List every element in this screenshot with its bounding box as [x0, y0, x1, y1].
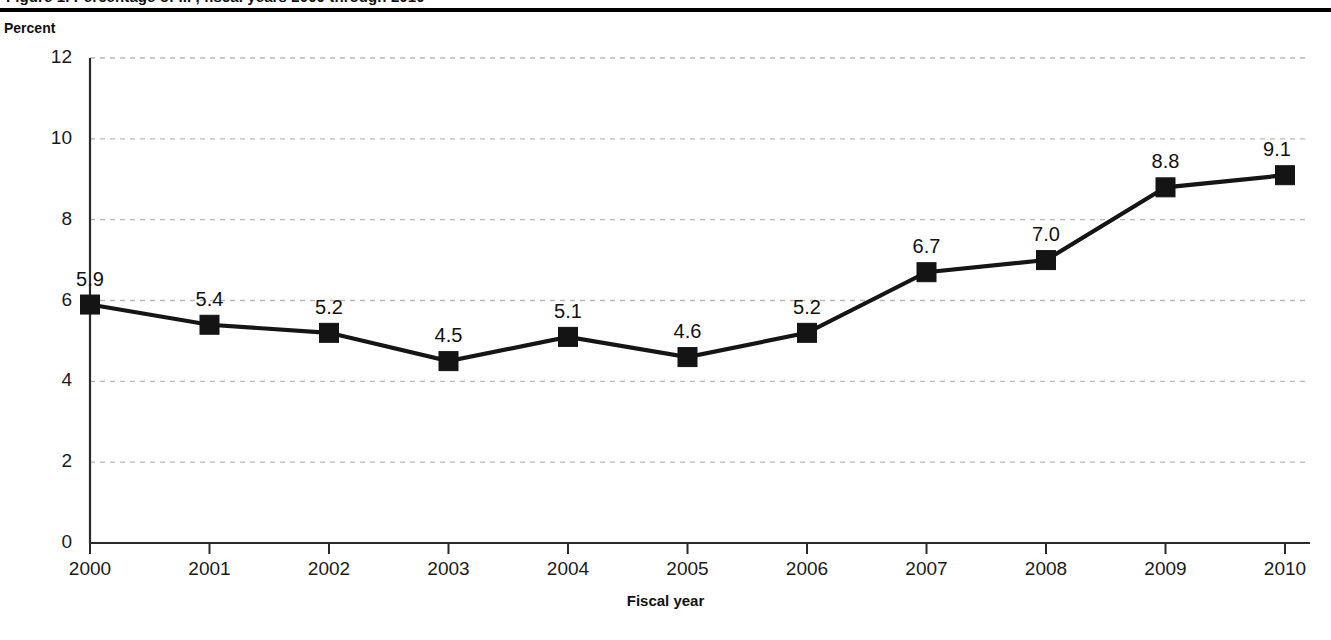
- data-point-label-2007: 6.7: [913, 235, 941, 257]
- y-tick-labels-group: 024681012: [51, 46, 73, 552]
- data-point-labels-group: 5.95.45.24.55.14.65.26.77.08.89.1: [76, 138, 1291, 346]
- data-marker-2008: [1037, 251, 1056, 270]
- data-marker-2009: [1156, 178, 1175, 197]
- line-chart-svg: 024681012 200020012002200320042005200620…: [0, 0, 1331, 640]
- gridlines-group: [90, 58, 1310, 462]
- chart-plot-area: 024681012 200020012002200320042005200620…: [0, 0, 1331, 640]
- y-tick-label-8: 8: [61, 208, 72, 229]
- x-tick-labels-group: 2000200120022003200420052006200720082009…: [69, 558, 1306, 579]
- y-tick-label-2: 2: [61, 450, 72, 471]
- data-point-label-2006: 5.2: [793, 296, 821, 318]
- data-point-label-2002: 5.2: [315, 296, 343, 318]
- y-tick-label-12: 12: [51, 46, 72, 67]
- y-tick-label-4: 4: [61, 369, 72, 390]
- data-point-label-2003: 4.5: [435, 324, 463, 346]
- data-marker-2003: [439, 352, 458, 371]
- data-marker-2002: [320, 323, 339, 342]
- x-tick-label-2006: 2006: [786, 558, 828, 579]
- x-tick-label-2004: 2004: [547, 558, 590, 579]
- y-tick-label-0: 0: [61, 531, 72, 552]
- x-tick-label-2005: 2005: [666, 558, 708, 579]
- x-tick-label-2003: 2003: [427, 558, 469, 579]
- data-marker-2005: [678, 348, 697, 367]
- x-tick-label-2000: 2000: [69, 558, 111, 579]
- data-point-label-2004: 5.1: [554, 300, 582, 322]
- data-marker-2007: [917, 263, 936, 282]
- x-tick-label-2008: 2008: [1025, 558, 1067, 579]
- x-tick-label-2007: 2007: [905, 558, 947, 579]
- data-marker-2006: [798, 323, 817, 342]
- y-tick-label-10: 10: [51, 127, 72, 148]
- y-tick-label-6: 6: [61, 289, 72, 310]
- data-marker-2004: [559, 327, 578, 346]
- x-tick-label-2010: 2010: [1264, 558, 1306, 579]
- data-point-label-2010: 9.1: [1263, 138, 1291, 160]
- data-marker-2001: [200, 315, 219, 334]
- data-point-label-2001: 5.4: [196, 288, 224, 310]
- data-marker-2010: [1276, 166, 1295, 185]
- data-point-label-2005: 4.6: [674, 320, 702, 342]
- data-marker-2000: [81, 295, 100, 314]
- data-point-label-2008: 7.0: [1032, 223, 1060, 245]
- axis-lines-group: [90, 58, 1310, 554]
- x-tick-label-2001: 2001: [188, 558, 230, 579]
- x-tick-label-2009: 2009: [1144, 558, 1186, 579]
- data-point-label-2009: 8.8: [1152, 150, 1180, 172]
- data-point-label-2000: 5.9: [76, 268, 104, 290]
- x-tick-label-2002: 2002: [308, 558, 350, 579]
